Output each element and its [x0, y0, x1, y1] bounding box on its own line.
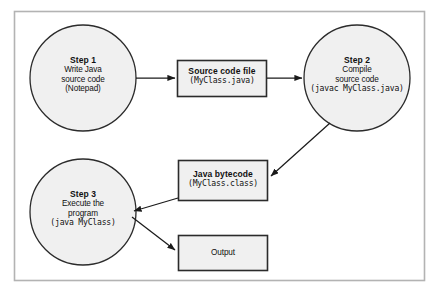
node-step3-circle: [30, 159, 136, 265]
node-source-file-box: [178, 61, 267, 97]
node-step2-circle: [304, 25, 410, 131]
node-output-box: [179, 236, 268, 271]
diagram-canvas: Step 1 Write Java source code (Notepad) …: [0, 0, 441, 294]
node-bytecode-box: [179, 161, 268, 201]
node-step1-circle: [30, 25, 136, 131]
diagram-shapes: [0, 0, 441, 294]
